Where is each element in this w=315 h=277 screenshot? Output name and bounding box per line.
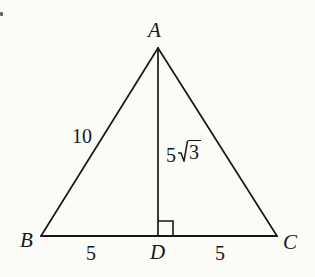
square-root-icon: 3: [178, 140, 201, 163]
segment-length-label-dc: 5: [215, 243, 225, 263]
altitude-coefficient: 5: [166, 145, 176, 165]
vertex-label-c: C: [283, 232, 298, 253]
geometry-figure: A B C D 10 5 5 5 3: [0, 0, 315, 277]
altitude-length-label: 5 3: [166, 140, 201, 165]
triangle-side-ab: [41, 48, 158, 236]
vertex-label-b: B: [20, 230, 33, 251]
vertex-label-a: A: [148, 20, 161, 41]
radicand-value: 3: [188, 140, 201, 163]
scan-artifact-speck: [0, 12, 3, 16]
vertex-label-d: D: [150, 242, 166, 263]
segment-length-label-bd: 5: [86, 243, 96, 263]
side-length-label-ab: 10: [72, 126, 92, 146]
right-angle-mark: [158, 221, 173, 236]
